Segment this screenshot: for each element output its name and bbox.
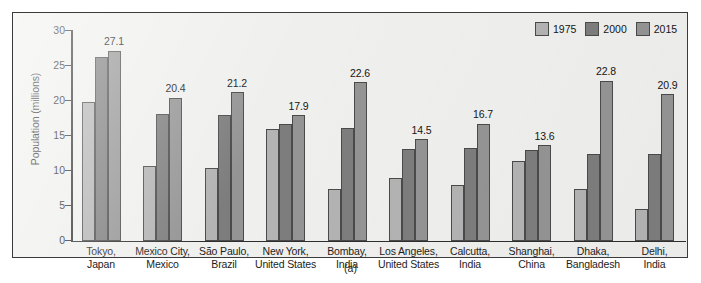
bar-2000 bbox=[525, 150, 538, 240]
bar-value-label: 16.7 bbox=[473, 108, 493, 120]
bar-2015 bbox=[600, 81, 613, 241]
bar-value-label: 21.2 bbox=[227, 77, 247, 89]
bar-value-label: 20.4 bbox=[165, 82, 185, 94]
y-tick-mark bbox=[65, 240, 71, 241]
y-tick-label: 25 bbox=[53, 59, 65, 71]
legend-item-2015: 2015 bbox=[636, 22, 681, 36]
x-axis-label-line: Delhi, bbox=[642, 245, 668, 258]
bar-value-label: 22.6 bbox=[350, 67, 370, 79]
bar-2015 bbox=[661, 94, 674, 240]
y-tick-mark bbox=[65, 205, 71, 206]
bar-value-label: 20.9 bbox=[657, 79, 677, 91]
x-axis-label-line: Tokyo, bbox=[86, 245, 115, 258]
bar-group bbox=[328, 31, 367, 241]
bar-1975 bbox=[635, 209, 648, 241]
legend-swatch-1975 bbox=[535, 22, 549, 36]
y-axis-line bbox=[71, 30, 73, 242]
legend-label: 2015 bbox=[654, 23, 677, 35]
x-axis-label-line: São Paulo, bbox=[199, 245, 249, 258]
y-axis-label: Population (millions) bbox=[29, 19, 41, 219]
legend-swatch-2000 bbox=[585, 22, 599, 36]
bar-value-label: 14.5 bbox=[411, 124, 431, 136]
legend-label: 2000 bbox=[603, 23, 626, 35]
bar-value-label: 27.1 bbox=[104, 35, 124, 47]
bar-group bbox=[635, 31, 674, 241]
bar-1975 bbox=[451, 185, 464, 240]
y-tick-mark bbox=[65, 65, 71, 66]
bar-2000 bbox=[587, 154, 600, 241]
bar-2015 bbox=[415, 139, 428, 241]
bar-2015 bbox=[231, 92, 244, 240]
y-tick-label: 5 bbox=[59, 199, 65, 211]
bar-2015 bbox=[292, 115, 305, 240]
bar-1975 bbox=[574, 189, 587, 241]
y-tick-mark bbox=[65, 135, 71, 136]
bar-2015 bbox=[108, 51, 121, 241]
bar-2000 bbox=[402, 149, 415, 241]
legend-label: 1975 bbox=[553, 23, 576, 35]
y-tick-label: 0 bbox=[59, 234, 65, 246]
bar-2000 bbox=[218, 115, 231, 241]
bar-1975 bbox=[82, 102, 95, 241]
plot-area: 051015202530 27.120.421.217.922.614.516.… bbox=[71, 30, 686, 242]
x-axis-label-line: Mexico City, bbox=[135, 245, 190, 258]
figure-panel: Population (millions) 051015202530 27.12… bbox=[0, 0, 701, 283]
bar-1975 bbox=[143, 166, 156, 241]
x-axis-label-line: Bombay, bbox=[327, 245, 367, 258]
bar-1975 bbox=[266, 129, 279, 240]
bar-value-label: 17.9 bbox=[288, 100, 308, 112]
bar-group bbox=[451, 31, 490, 241]
bar-2000 bbox=[95, 57, 108, 240]
y-tick-label: 15 bbox=[53, 129, 65, 141]
x-axis-label-line: Los Angeles, bbox=[378, 245, 439, 258]
bar-2015 bbox=[477, 124, 490, 241]
bar-2015 bbox=[169, 98, 182, 241]
y-tick-label: 10 bbox=[53, 164, 65, 176]
figure-caption: (a) bbox=[0, 262, 701, 274]
legend-item-2000: 2000 bbox=[585, 22, 630, 36]
bar-group bbox=[389, 31, 428, 241]
x-axis-label-line: Calcutta, bbox=[450, 245, 490, 258]
bar-2000 bbox=[648, 154, 661, 240]
x-axis-label-line: Dhaka, bbox=[566, 245, 620, 258]
bar-2000 bbox=[341, 128, 354, 241]
bar-value-label: 13.6 bbox=[534, 130, 554, 142]
bar-group bbox=[574, 31, 613, 241]
bar-group bbox=[205, 31, 244, 241]
x-axis-label-line: Shanghai, bbox=[509, 245, 555, 258]
y-tick-mark bbox=[65, 100, 71, 101]
chart-frame: Population (millions) 051015202530 27.12… bbox=[12, 12, 688, 258]
bar-1975 bbox=[512, 161, 525, 241]
bar-2000 bbox=[156, 114, 169, 241]
bar-2015 bbox=[354, 82, 367, 240]
bar-2000 bbox=[464, 148, 477, 240]
bar-1975 bbox=[389, 178, 402, 240]
bar-1975 bbox=[205, 168, 218, 240]
bar-1975 bbox=[328, 189, 341, 240]
x-axis-label-line: New York, bbox=[255, 245, 316, 258]
y-tick-mark bbox=[65, 170, 71, 171]
bar-group bbox=[82, 31, 121, 241]
bar-2000 bbox=[279, 124, 292, 240]
bar-2015 bbox=[538, 145, 551, 240]
legend: 197520002015 bbox=[535, 22, 681, 36]
legend-item-1975: 1975 bbox=[535, 22, 580, 36]
legend-swatch-2015 bbox=[636, 22, 650, 36]
bar-group bbox=[143, 31, 182, 241]
bar-group bbox=[266, 31, 305, 241]
bar-value-label: 22.8 bbox=[596, 65, 616, 77]
y-tick-label: 30 bbox=[53, 24, 65, 36]
y-tick-label: 20 bbox=[53, 94, 65, 106]
y-tick-mark bbox=[65, 30, 71, 31]
x-axis-line bbox=[71, 241, 686, 243]
